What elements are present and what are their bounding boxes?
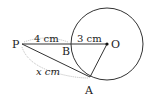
label-B: B	[62, 45, 70, 58]
geometry-diagram: P B O A 4 cm 3 cm x cm	[0, 0, 152, 99]
label-O: O	[111, 38, 120, 51]
length-PA: x cm	[36, 66, 60, 77]
length-PB: 4 cm	[34, 33, 59, 44]
label-P: P	[12, 38, 20, 51]
label-A: A	[84, 84, 94, 97]
radius-OA	[90, 44, 107, 77]
center-dot	[105, 42, 108, 45]
length-BO: 3 cm	[77, 33, 102, 44]
